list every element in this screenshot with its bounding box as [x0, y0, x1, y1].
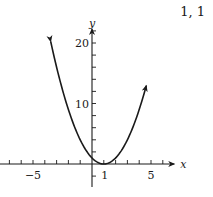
x-tick-label: 1 [101, 169, 108, 182]
x-tick-label: 5 [148, 169, 155, 182]
parabola-chart: −5151020xy [0, 0, 213, 197]
x-axis-label: x [180, 158, 187, 171]
y-tick-label: 10 [75, 98, 89, 111]
y-axis-label: y [88, 17, 96, 30]
tick-labels: −5151020xy [25, 17, 187, 182]
y-tick-label: 20 [75, 37, 89, 50]
parabola-curve [51, 41, 147, 164]
x-tick-label: −5 [25, 169, 41, 182]
